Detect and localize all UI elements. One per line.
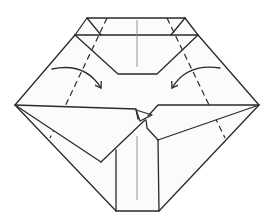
origami-diagram xyxy=(0,0,273,222)
